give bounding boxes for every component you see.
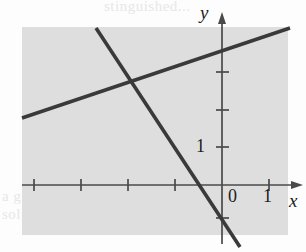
x-axis-label: x <box>289 190 297 212</box>
y-axis-label: y <box>200 2 208 24</box>
figure-graph-two-lines: stinguished... a graphical interpretatio… <box>0 0 306 252</box>
plot-canvas <box>0 0 306 252</box>
y-tick-label-1: 1 <box>196 136 205 157</box>
x-tick-label-1: 1 <box>263 186 272 207</box>
origin-label: 0 <box>228 186 237 207</box>
rising-line <box>22 28 290 118</box>
falling-line <box>96 28 240 247</box>
x-axis <box>22 181 303 189</box>
y-axis <box>218 12 226 244</box>
